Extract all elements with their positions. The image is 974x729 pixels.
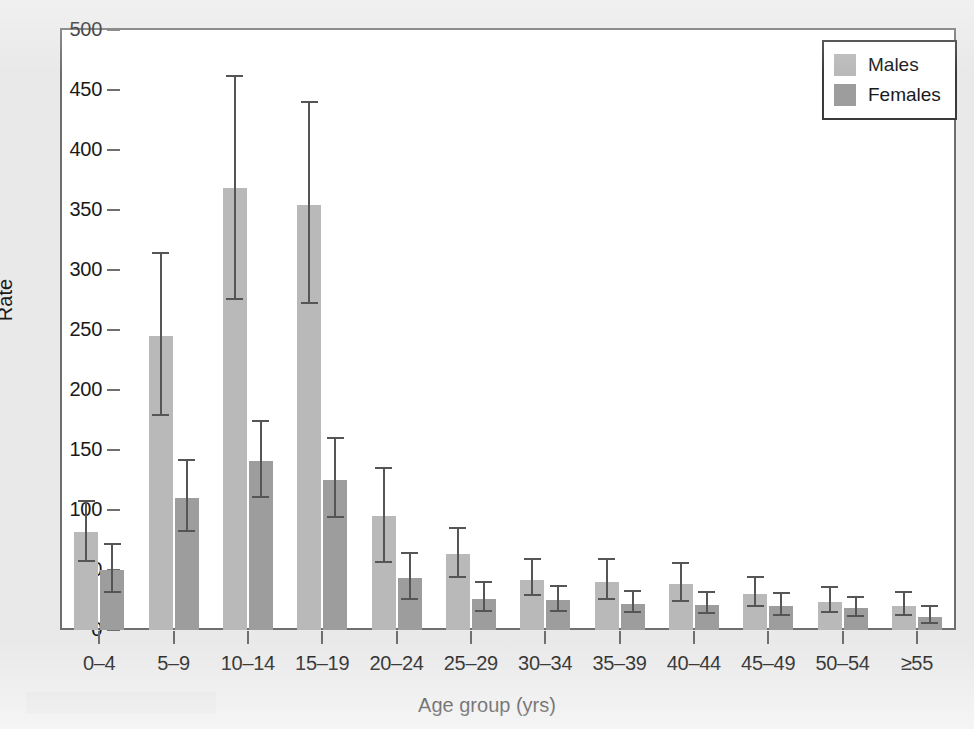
error-bar-stem: [409, 554, 411, 600]
x-axis-tick-mark: [544, 631, 546, 644]
error-bar-stem: [680, 564, 682, 602]
y-axis-label: Rate: [0, 279, 17, 321]
error-bar-cap-upper: [252, 420, 269, 422]
error-bar-cap-lower: [847, 615, 864, 617]
error-bar-cap-lower: [921, 622, 938, 624]
bar-group: [297, 30, 347, 630]
x-axis-tick-mark: [98, 631, 100, 644]
error-bar-stem: [780, 594, 782, 616]
error-bar-cap-upper: [327, 437, 344, 439]
error-bar-cap-upper: [672, 562, 689, 564]
bar-group: [818, 30, 868, 630]
error-bar-cap-lower: [747, 605, 764, 607]
legend-item: Females: [834, 80, 941, 110]
legend-swatch-males-icon: [834, 54, 856, 76]
error-bar-cap-lower: [598, 598, 615, 600]
error-bar-cap-upper: [624, 590, 641, 592]
error-bar-cap-upper: [104, 543, 121, 545]
error-bar-cap-upper: [178, 459, 195, 461]
error-bar-stem: [706, 593, 708, 615]
x-axis-tick-label: 5–9: [157, 652, 189, 675]
error-bar-stem: [606, 560, 608, 600]
x-axis-tick-mark: [321, 631, 323, 644]
error-bar-cap-upper: [475, 581, 492, 583]
error-bar-stem: [531, 560, 533, 596]
error-bar-cap-upper: [895, 591, 912, 593]
error-bar-cap-lower: [104, 591, 121, 593]
bar-group: [520, 30, 570, 630]
x-axis-tick-label: 30–34: [518, 652, 572, 675]
x-axis-tick-label: 20–24: [369, 652, 423, 675]
error-bar-cap-upper: [524, 558, 541, 560]
x-axis-tick-mark: [396, 631, 398, 644]
error-bar-cap-lower: [152, 414, 169, 416]
legend-item: Males: [834, 50, 941, 80]
x-axis-tick-label: 40–44: [667, 652, 721, 675]
error-bar-stem: [160, 254, 162, 416]
error-bar-cap-lower: [624, 611, 641, 613]
x-axis-tick-mark: [693, 631, 695, 644]
error-bar-stem: [632, 592, 634, 614]
error-bar-cap-lower: [821, 611, 838, 613]
legend: Males Females: [822, 40, 957, 120]
x-axis-tick-mark: [619, 631, 621, 644]
plot-area: 050100150200250300350400450500 0–45–910–…: [62, 30, 954, 630]
error-bar-cap-lower: [375, 561, 392, 563]
error-bar-cap-lower: [895, 614, 912, 616]
error-bar-cap-upper: [747, 576, 764, 578]
bar-group: [743, 30, 793, 630]
x-axis-tick-label: 10–14: [221, 652, 275, 675]
error-bar-cap-lower: [698, 612, 715, 614]
legend-label-females: Females: [868, 84, 941, 106]
error-bar-stem: [483, 583, 485, 612]
error-bar-cap-upper: [773, 592, 790, 594]
error-bar-cap-upper: [226, 75, 243, 77]
error-bar-stem: [186, 461, 188, 532]
error-bar-cap-upper: [847, 596, 864, 598]
bar-group: [223, 30, 273, 630]
error-bar-stem: [903, 593, 905, 616]
error-bar-stem: [111, 545, 113, 593]
bar-group: [149, 30, 199, 630]
error-bar-cap-lower: [475, 610, 492, 612]
x-axis-tick-mark: [173, 631, 175, 644]
error-bar-cap-upper: [449, 527, 466, 529]
bar-group: [669, 30, 719, 630]
x-axis-tick-label: 35–39: [592, 652, 646, 675]
bar-group: [446, 30, 496, 630]
x-axis-tick-label: 45–49: [741, 652, 795, 675]
x-axis-tick-mark: [470, 631, 472, 644]
error-bar-cap-upper: [598, 558, 615, 560]
x-axis-tick-label: ≥55: [901, 652, 933, 675]
error-bar-cap-upper: [921, 605, 938, 607]
x-axis-tick-mark: [247, 631, 249, 644]
x-axis-tick-label: 25–29: [444, 652, 498, 675]
error-bar-stem: [754, 578, 756, 607]
error-bar-cap-lower: [252, 496, 269, 498]
error-bar-cap-lower: [78, 560, 95, 562]
bar-group: [74, 30, 124, 630]
error-bar-cap-upper: [401, 552, 418, 554]
bar-group: [372, 30, 422, 630]
error-bar-cap-lower: [327, 516, 344, 518]
error-bar-stem: [234, 77, 236, 300]
error-bar-cap-lower: [449, 576, 466, 578]
error-bar-cap-upper: [698, 591, 715, 593]
error-bar-cap-upper: [821, 586, 838, 588]
error-bar-stem: [457, 529, 459, 578]
x-axis-tick-mark: [842, 631, 844, 644]
error-bar-cap-lower: [773, 614, 790, 616]
error-bar-cap-upper: [78, 500, 95, 502]
x-axis-tick-label: 50–54: [815, 652, 869, 675]
bar-group: [892, 30, 942, 630]
error-bar-cap-lower: [226, 298, 243, 300]
error-bar-stem: [383, 469, 385, 563]
error-bar-stem: [260, 422, 262, 498]
scan-artifact: [26, 692, 216, 714]
figure-panel: Rate Age group (yrs) 0501001502002503003…: [0, 0, 974, 729]
error-bar-cap-lower: [301, 302, 318, 304]
x-axis-tick-mark: [767, 631, 769, 644]
error-bar-stem: [85, 502, 87, 562]
legend-swatch-females-icon: [834, 84, 856, 106]
error-bar-cap-lower: [401, 598, 418, 600]
